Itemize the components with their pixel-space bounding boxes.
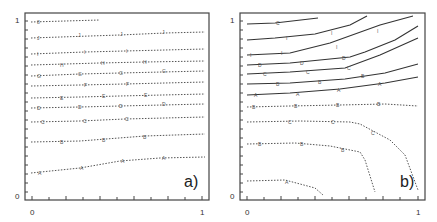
svg-text:C: C [125, 116, 129, 122]
svg-text:D: D [37, 105, 41, 111]
panel-b-x-ticks [247, 196, 418, 200]
svg-text:I: I [126, 48, 127, 54]
panel-b-solid-contours [247, 16, 418, 95]
panel-b: 1 0 0 1 C II IIII DDD CCC BBB AAAA BB [230, 13, 425, 217]
svg-text:B: B [102, 137, 106, 143]
panel-b-dotted-contours [247, 104, 418, 195]
figure: 1 0 0 1 8 JJJJ III HHH GGGG FF EEE DDDD … [0, 0, 437, 222]
svg-text:A: A [285, 179, 289, 185]
svg-text:H: H [143, 59, 147, 65]
svg-text:A: A [38, 170, 42, 176]
svg-text:D: D [342, 55, 346, 61]
svg-text:B: B [60, 139, 64, 145]
svg-text:C: C [371, 130, 375, 136]
panel-a-y-min: 0 [15, 192, 20, 201]
svg-text:B: B [300, 141, 304, 147]
svg-text:C: C [288, 119, 292, 125]
svg-text:D: D [119, 103, 123, 109]
svg-text:J: J [162, 29, 165, 35]
svg-text:J: J [37, 35, 40, 41]
panel-a-y-max: 1 [15, 16, 20, 25]
panel-a-label: a) [184, 173, 198, 190]
svg-text:B: B [276, 81, 280, 87]
svg-text:J: J [120, 31, 123, 37]
svg-text:I: I [84, 49, 85, 55]
panel-b-x-min: 0 [245, 208, 250, 217]
svg-text:B: B [252, 104, 256, 110]
svg-text:H: H [101, 60, 105, 66]
svg-text:I: I [336, 44, 337, 50]
panel-a-x-min: 0 [30, 208, 35, 217]
svg-text:C: C [331, 119, 335, 125]
svg-text:B: B [318, 79, 322, 85]
svg-text:8: 8 [37, 19, 40, 25]
panel-b-y-min: 0 [230, 192, 235, 201]
panel-b-y-max: 1 [230, 16, 235, 25]
svg-text:B: B [294, 103, 298, 109]
svg-text:E: E [144, 92, 148, 98]
svg-text:E: E [60, 95, 64, 101]
svg-text:G: G [162, 68, 166, 74]
svg-text:B: B [341, 147, 345, 153]
svg-text:C: C [306, 69, 310, 75]
svg-text:H: H [60, 62, 64, 68]
svg-text:I: I [286, 35, 287, 41]
svg-text:F: F [126, 81, 129, 87]
svg-text:C: C [276, 20, 280, 26]
svg-text:A: A [80, 165, 84, 171]
panel-a-x-ticks [32, 196, 202, 200]
svg-text:B: B [143, 134, 147, 140]
svg-text:D: D [300, 60, 304, 66]
panel-b-frame [240, 13, 425, 200]
panel-b-label: b) [400, 173, 414, 190]
svg-text:B: B [258, 141, 262, 147]
svg-text:C: C [41, 119, 45, 125]
panel-a-x-max: 1 [200, 208, 205, 217]
svg-text:I: I [377, 28, 378, 34]
svg-text:J: J [78, 32, 81, 38]
panel-a: 1 0 0 1 8 JJJJ III HHH GGGG FF EEE DDDD … [15, 13, 209, 217]
svg-text:I: I [281, 50, 282, 56]
panel-a-frame [25, 13, 209, 200]
panel-b-contour-labels: C II IIII DDD CCC BBB AAAA BBBB CCC BBB … [250, 20, 382, 185]
svg-text:A: A [337, 87, 341, 93]
svg-text:G: G [78, 71, 82, 77]
svg-text:I: I [331, 30, 332, 36]
panel-a-contours [31, 20, 205, 173]
svg-text:D: D [78, 104, 82, 110]
panel-b-x-max: 1 [416, 208, 421, 217]
svg-text:I: I [250, 52, 251, 58]
svg-text:B: B [336, 102, 340, 108]
svg-text:C: C [263, 71, 267, 77]
svg-text:G: G [119, 70, 123, 76]
svg-text:D: D [258, 62, 262, 68]
svg-text:D: D [162, 101, 166, 107]
svg-text:G: G [37, 73, 41, 79]
svg-text:F: F [84, 82, 87, 88]
svg-text:C: C [347, 65, 351, 71]
svg-text:E: E [102, 93, 106, 99]
svg-text:C: C [83, 118, 87, 124]
svg-text:I: I [37, 51, 38, 57]
